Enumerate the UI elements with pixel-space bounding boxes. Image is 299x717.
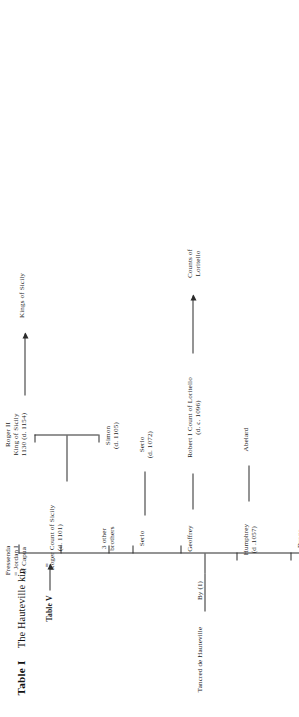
node-simon: Simon (d. 1105)	[104, 407, 120, 463]
node-name-2: brothers	[108, 507, 116, 569]
tick-roger-ii	[34, 434, 35, 442]
tick-simon	[98, 434, 99, 442]
node-counts-of-loritello: Counts of Loritello	[186, 233, 202, 293]
connector-serlo-to-serlo	[144, 471, 145, 515]
node-name: Serlo	[138, 514, 146, 562]
title-number: Table I	[14, 660, 26, 695]
tick-serlo	[132, 545, 133, 553]
arrow-to-kings-of-sicily	[24, 333, 25, 395]
node-label: Tancred de Hauteville	[196, 611, 204, 707]
node-roger-ii-king-of-sicily: Roger II King of Sicily 1130 (d. 1154)	[4, 399, 28, 469]
node-dates: (d. 1101)	[56, 481, 64, 593]
node-geoffrey: Geoffrey	[186, 509, 194, 567]
tick-geoffrey	[180, 545, 181, 553]
node-name: Abelard	[242, 413, 250, 465]
node-serlo-d1072: Serlo (d. 1072)	[138, 417, 154, 471]
node-robert-i-count-of-loritello: Robert I Count of Loritello (d. c. 1096)	[186, 353, 202, 481]
arrow-to-counts-of-loritello	[192, 295, 193, 353]
node-fressenda-jordan-capua: Fressenda = Jordan I of Capua	[4, 525, 28, 595]
children-spine-roger-count	[34, 434, 98, 435]
outcome-line-1: Kings of Sicily	[18, 259, 26, 331]
sibling-spine-gen1	[60, 552, 299, 553]
label-by-1: By (1)	[196, 573, 204, 607]
node-humphrey: Humphrey (d .1057)	[242, 502, 258, 576]
node-serlo: Serlo	[138, 514, 146, 562]
xref-table-v[interactable]: Table V	[44, 595, 53, 621]
node-kings-of-sicily: Kings of Sicily	[18, 259, 26, 331]
tick-humphrey	[236, 552, 237, 560]
tick-drogo	[290, 552, 291, 560]
node-name: Geoffrey	[186, 509, 194, 567]
node-dates: (d .1057)	[250, 502, 258, 576]
node-three-other-brothers: 3 other brothers	[100, 507, 116, 569]
outcome-line-2: Loritello	[194, 233, 202, 293]
by-1-label: By (1)	[196, 573, 204, 607]
node-name: Drogo	[296, 505, 299, 571]
node-dates: (d. 1105)	[112, 407, 120, 463]
connector-root-to-spine	[204, 573, 205, 611]
node-dates: (d. 1072)	[146, 417, 154, 471]
connector-by1-to-spine	[204, 553, 205, 573]
node-dates: 1130 (d. 1154)	[20, 399, 28, 469]
node-dates: (d. c. 1096)	[194, 353, 202, 481]
connector-roger-count-to-children	[66, 435, 67, 481]
arrow-to-table-v	[49, 564, 50, 590]
node-tancred-de-hauteville: Tancred de Hauteville	[196, 611, 204, 707]
node-drogo: Drogo (d. 1051)	[296, 505, 299, 571]
connector-humphrey-to-abelard	[248, 465, 249, 501]
genealogy-table-canvas: Table I The Hauteville kin Tancred de Ha…	[0, 0, 299, 717]
node-abelard: Abelard	[242, 413, 250, 465]
node-place: of Capua	[20, 525, 28, 595]
